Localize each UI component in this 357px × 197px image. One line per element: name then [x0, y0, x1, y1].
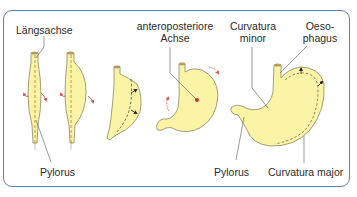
label-curvatura-minor-line2: minor	[228, 32, 278, 44]
label-ap-axis-line1: anteroposteriore	[135, 20, 215, 32]
stage-1-tube	[24, 52, 46, 151]
label-curvatura-minor-line1: Curvatura	[228, 20, 278, 32]
label-pylorus-right: Pylorus	[214, 166, 249, 178]
label-oesophagus-line1: Oeso-	[298, 20, 342, 32]
stage-3-rotated-stomach	[107, 66, 141, 140]
label-oesophagus-line2: phagus	[298, 32, 342, 44]
stage-2-bulging-tube	[61, 52, 93, 151]
stage-4-ap-rotation	[157, 47, 218, 132]
label-curvatura-major: Curvatura major	[268, 166, 343, 178]
label-laengsachse: Längsachse	[16, 24, 73, 36]
label-pylorus-left: Pylorus	[40, 166, 75, 178]
pylorus-left-leader	[36, 120, 51, 162]
stage-5-final-stomach	[231, 46, 324, 163]
label-ap-axis-line2: Achse	[135, 32, 215, 44]
